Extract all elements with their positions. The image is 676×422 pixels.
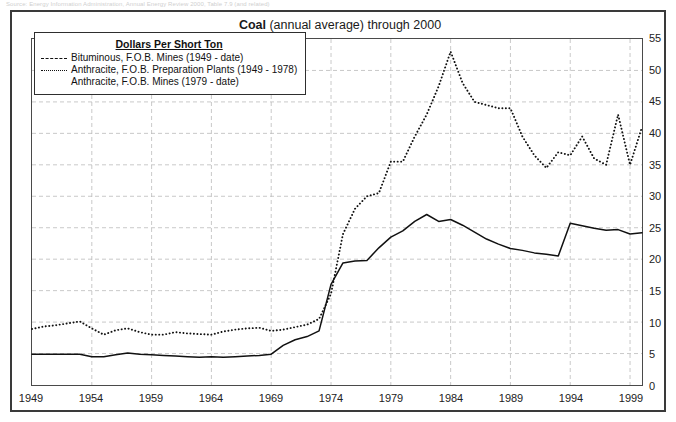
x-tick-label: 1969 (259, 392, 283, 404)
legend-entry: Anthracite, F.O.B. Mines (1979 - date) (41, 76, 297, 88)
x-tick-label: 1959 (139, 392, 163, 404)
x-tick-label: 1954 (79, 392, 103, 404)
y-tick-label: 25 (649, 222, 675, 234)
y-tick-label: 10 (649, 317, 675, 329)
y-tick-label: 15 (649, 285, 675, 297)
chart-title-rest: (annual average) through 2000 (266, 18, 441, 32)
dotted-line-icon (41, 65, 67, 75)
y-tick-label: 55 (649, 32, 675, 44)
legend-rows: Bituminous, F.O.B. Mines (1949 - date)An… (41, 52, 297, 88)
no-line-icon (41, 77, 67, 87)
y-tick-label: 45 (649, 95, 675, 107)
legend-entry: Bituminous, F.O.B. Mines (1949 - date) (41, 52, 297, 64)
legend-entry-label: Anthracite, F.O.B. Preparation Plants (1… (71, 64, 297, 76)
legend-entry-label: Bituminous, F.O.B. Mines (1949 - date) (71, 52, 243, 64)
x-tick-label: 1984 (439, 392, 463, 404)
y-tick-label: 50 (649, 64, 675, 76)
y-tick-label: 0 (649, 380, 675, 392)
figure-frame: Coal (annual average) through 2000 05101… (10, 10, 666, 412)
chart-title: Coal (annual average) through 2000 (12, 18, 668, 32)
y-tick-label: 35 (649, 159, 675, 171)
y-tick-label: 5 (649, 348, 675, 360)
dashed-line-icon (41, 53, 67, 63)
y-tick-label: 20 (649, 253, 675, 265)
x-tick-label: 1979 (379, 392, 403, 404)
x-tick-label: 1949 (19, 392, 43, 404)
legend-title: Dollars Per Short Ton (41, 38, 297, 50)
chart-title-strong: Coal (239, 18, 266, 32)
legend-entry-label: Anthracite, F.O.B. Mines (1979 - date) (71, 76, 239, 88)
x-tick-label: 1999 (619, 392, 643, 404)
series-line (32, 215, 642, 358)
source-note: Source: Energy Information Administratio… (0, 0, 676, 9)
chart-legend: Dollars Per Short Ton Bituminous, F.O.B.… (34, 32, 306, 95)
legend-entry: Anthracite, F.O.B. Preparation Plants (1… (41, 64, 297, 76)
x-tick-label: 1974 (319, 392, 343, 404)
x-tick-label: 1964 (199, 392, 223, 404)
y-tick-label: 40 (649, 127, 675, 139)
x-tick-label: 1989 (499, 392, 523, 404)
x-tick-label: 1994 (559, 392, 583, 404)
y-tick-label: 30 (649, 190, 675, 202)
